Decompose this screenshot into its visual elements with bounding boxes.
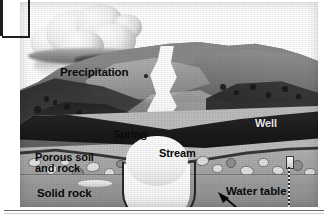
tree-speck [34,106,41,113]
pebble [226,158,236,168]
tree-speck [220,84,226,90]
label-solid-rock: Solid rock [37,188,92,200]
spring-seep [78,180,112,187]
label-stream: Stream [159,148,196,159]
page-left-edge-bar [0,0,3,36]
tree-speck [77,110,82,115]
tree-speck [44,96,49,102]
tree-speck [266,92,271,98]
tree-speck [53,100,57,105]
stream-pool [126,136,188,186]
figure-page: Precipitation Spring Stream Well Porous … [0,0,330,221]
groundwater-illustration: Precipitation Spring Stream Well Porous … [20,2,318,207]
label-precipitation: Precipitation [60,67,128,79]
label-porous-soil-and-rock: Porous soil and rock [35,152,94,174]
tree-speck [64,104,70,110]
label-spring: Spring [113,129,147,140]
tree-speck [144,74,148,78]
label-water-table: Water table [226,186,286,198]
well-shaft-icon [288,167,290,207]
page-rule [4,210,324,211]
tree-speck [250,84,256,90]
tree-speck [296,94,301,99]
tree-speck [234,90,239,95]
pebble [258,158,269,167]
label-well: Well [255,118,277,129]
page-rule-secondary [4,213,324,214]
pebble [212,164,223,173]
tree-speck [282,86,288,92]
